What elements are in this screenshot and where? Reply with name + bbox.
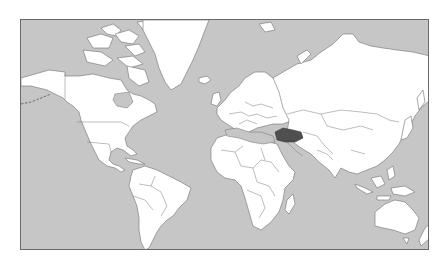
asia bbox=[273, 34, 429, 178]
world-map bbox=[20, 19, 429, 250]
new-zealand bbox=[419, 224, 429, 246]
british-isles bbox=[211, 92, 221, 106]
svalbard bbox=[259, 22, 275, 32]
madagascar bbox=[285, 194, 295, 214]
australia bbox=[375, 200, 419, 234]
tasmania bbox=[403, 238, 409, 244]
aleutian-islands bbox=[21, 94, 51, 104]
south-america bbox=[129, 166, 191, 250]
world-map-svg bbox=[21, 20, 429, 250]
north-america bbox=[21, 70, 157, 172]
africa bbox=[211, 134, 295, 230]
iceland bbox=[199, 76, 211, 84]
caribbean-islands bbox=[125, 158, 145, 164]
